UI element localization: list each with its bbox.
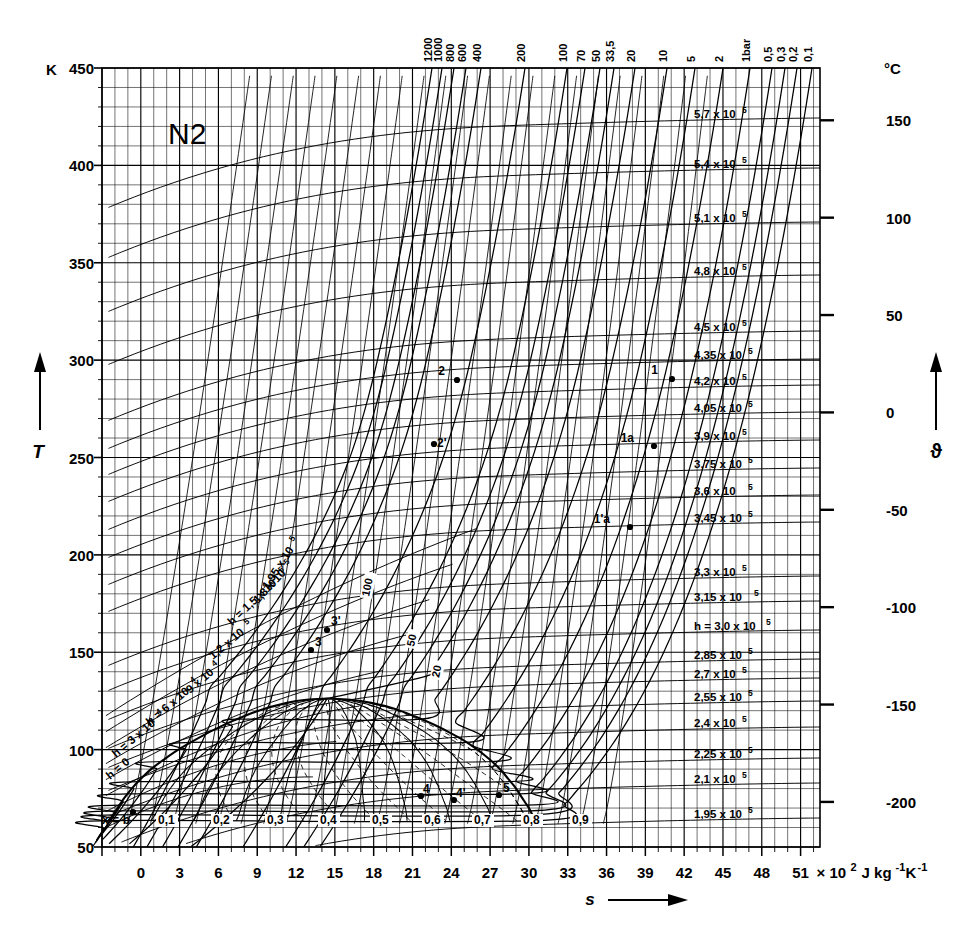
state-point-label: 4 bbox=[423, 782, 430, 796]
x-axis-tick-label: 45 bbox=[715, 864, 732, 881]
y-axis-tick-label: 200 bbox=[69, 547, 94, 564]
isenthalp-label-exp: 5 bbox=[748, 455, 753, 465]
y-axis-right-tick-label: -200 bbox=[886, 794, 916, 811]
y-axis-right-tick-label: 150 bbox=[886, 112, 911, 129]
isenthalp-label-exp: 5 bbox=[742, 770, 747, 780]
isobar-label: 2 bbox=[713, 56, 725, 62]
isenthalp-label-text: 1,95 x 10 bbox=[694, 808, 742, 820]
isobar-label: 100 bbox=[557, 44, 569, 62]
state-point-marker[interactable] bbox=[130, 809, 136, 815]
isobar-label: 200 bbox=[515, 44, 527, 62]
background bbox=[0, 0, 968, 951]
x-axis-symbol-s: s bbox=[585, 890, 594, 909]
isenthalp-label-exp: 5 bbox=[742, 155, 747, 165]
x-axis-tick-label: 12 bbox=[288, 864, 305, 881]
isenthalp-label-exp: 5 bbox=[742, 427, 747, 437]
quality-value-text: 0,8 bbox=[523, 813, 540, 827]
isenthalp-label-exp: 5 bbox=[742, 262, 747, 272]
quality-value: 0,4 bbox=[318, 813, 340, 827]
x-axis-tick-label: 27 bbox=[482, 864, 499, 881]
x-axis-tick-label: 51 bbox=[792, 864, 809, 881]
x-axis-tick-label: 24 bbox=[443, 864, 460, 881]
isenthalp-label-exp: 5 bbox=[742, 105, 747, 115]
isenthalp-label-text: 5,7 x 10 bbox=[694, 108, 736, 120]
x-axis-unit-Jkg: J kg bbox=[862, 864, 892, 881]
state-point-marker[interactable] bbox=[627, 524, 633, 530]
quality-value: 0,3 bbox=[265, 813, 287, 827]
x-axis-unit-group: × 102J kg-1K-1 bbox=[817, 861, 928, 881]
isenthalp-label-exp: 5 bbox=[748, 509, 753, 519]
y-axis-right-tick-label: -100 bbox=[886, 599, 916, 616]
isenthalp-label-text: 2,85 x 10 bbox=[694, 649, 742, 661]
y-axis-right-tick-label: -150 bbox=[886, 697, 916, 714]
x-axis-unit-exp1: -1 bbox=[896, 861, 906, 873]
isenthalp-label-text: 2,7 x 10 bbox=[694, 668, 736, 680]
x-axis-tick-label: 18 bbox=[365, 864, 382, 881]
x-axis-tick-label: 0 bbox=[137, 864, 145, 881]
state-point-label: 2' bbox=[437, 436, 447, 450]
isenthalp-label-exp: 5 bbox=[766, 617, 771, 627]
isenthalp-label-exp: 5 bbox=[748, 745, 753, 755]
x-axis-tick-label: 33 bbox=[559, 864, 576, 881]
y-axis-symbol-theta: ϑ bbox=[930, 440, 942, 462]
state-point-marker[interactable] bbox=[669, 376, 675, 382]
isenthalp-label-text: 4,35 x 10 bbox=[694, 349, 742, 361]
x-axis-unit-K: K bbox=[906, 864, 917, 881]
isobar-label: 0,1 bbox=[802, 47, 814, 62]
quality-value-text: 0,2 bbox=[213, 813, 230, 827]
x-axis-tick-label: 15 bbox=[327, 864, 344, 881]
quality-value-text: 0,7 bbox=[474, 813, 491, 827]
isenthalp-label-exp: 5 bbox=[742, 563, 747, 573]
ts-diagram-svg: K45040035030025020015010050T036912151821… bbox=[0, 0, 968, 951]
isenthalp-label-text: 4,5 x 10 bbox=[694, 321, 736, 333]
isobar-label: 0,5 bbox=[762, 47, 774, 62]
state-point-label: 2 bbox=[438, 364, 445, 378]
quality-value-text: 0,4 bbox=[320, 813, 337, 827]
x-axis-tick-label: 42 bbox=[676, 864, 693, 881]
x-axis-unit-mult: × 10 bbox=[817, 864, 847, 881]
isenthalp-label-exp: 5 bbox=[748, 346, 753, 356]
y-axis-right-tick-label: 50 bbox=[886, 307, 903, 324]
x-axis-tick-label: 21 bbox=[404, 864, 421, 881]
y-axis-tick-label: 450 bbox=[69, 60, 94, 77]
isenthalp-label-exp: 5 bbox=[742, 665, 747, 675]
isenthalp-label-exp: 5 bbox=[748, 688, 753, 698]
y-axis-unit-K: K bbox=[46, 61, 57, 78]
quality-label-prefix: x = bbox=[102, 813, 119, 827]
isenthalp-label-exp: 5 bbox=[742, 209, 747, 219]
isenthalp-label-exp: 5 bbox=[748, 399, 753, 409]
y-axis-symbol-T: T bbox=[32, 441, 45, 462]
y-axis-tick-label: 100 bbox=[69, 742, 94, 759]
y-axis-tick-label: 150 bbox=[69, 644, 94, 661]
state-point-marker[interactable] bbox=[651, 443, 657, 449]
isenthalp-label-text: 3,6 x 10 bbox=[694, 485, 736, 497]
state-point-label: 4' bbox=[456, 786, 466, 800]
state-point-marker[interactable] bbox=[496, 792, 502, 798]
isenthalp-label-text: 2,25 x 10 bbox=[694, 748, 742, 760]
x-axis-tick-label: 48 bbox=[753, 864, 770, 881]
state-point-marker[interactable] bbox=[308, 647, 314, 653]
isobar-label: 0,2 bbox=[787, 47, 799, 62]
y-axis-tick-label: 350 bbox=[69, 255, 94, 272]
isenthalp-label-exp: 5 bbox=[748, 482, 753, 492]
y-axis-tick-label: 300 bbox=[69, 352, 94, 369]
state-point-label: 5 bbox=[503, 781, 510, 795]
state-point-marker[interactable] bbox=[454, 377, 460, 383]
isobar-label: 0,3 bbox=[775, 47, 787, 62]
isenthalp-label-exp: 5 bbox=[748, 805, 753, 815]
state-point-label: 3' bbox=[331, 614, 341, 628]
x-axis-tick-label: 36 bbox=[598, 864, 615, 881]
state-point-marker[interactable] bbox=[324, 627, 330, 633]
ts-diagram-root: K45040035030025020015010050T036912151821… bbox=[0, 0, 968, 951]
x-axis-tick-label: 39 bbox=[637, 864, 654, 881]
state-point-label: 1'a bbox=[594, 512, 611, 526]
isobar-label: 33,5 bbox=[604, 41, 616, 62]
isenthalp-label-text: 2,1 x 10 bbox=[694, 773, 736, 785]
x-axis-unit-exp: 2 bbox=[851, 861, 857, 873]
isenthalp-label-text: 5,1 x 10 bbox=[694, 212, 736, 224]
isobar-label: 600 bbox=[456, 44, 468, 62]
quality-value-text: 0,5 bbox=[372, 813, 389, 827]
isenthalp-label-text: 4,8 x 10 bbox=[694, 265, 736, 277]
isenthalp-label-exp: 5 bbox=[754, 588, 759, 598]
state-point-label: 3 bbox=[315, 635, 322, 649]
